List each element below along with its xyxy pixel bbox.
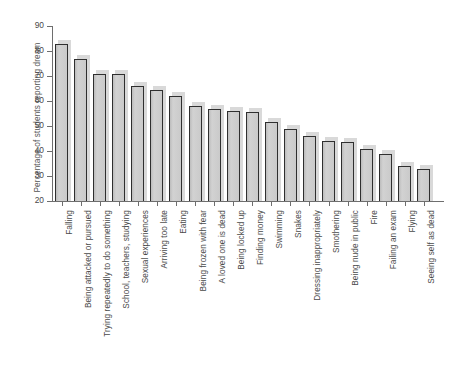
- bar: [322, 137, 339, 201]
- y-axis-line: [52, 26, 53, 202]
- x-tick: [195, 202, 196, 206]
- x-tick-label: Dressing inappropriately: [313, 210, 322, 301]
- bar: [284, 125, 301, 202]
- x-tick: [176, 202, 177, 206]
- bar: [150, 86, 167, 201]
- y-tick: 40: [47, 151, 52, 152]
- x-tick: [119, 202, 120, 206]
- x-tick: [138, 202, 139, 206]
- bar-body: [227, 111, 240, 201]
- x-tick-label: Being nude in public: [351, 210, 360, 286]
- bar: [74, 55, 91, 202]
- bar-chart: Percentage of students reporting dream 2…: [0, 0, 462, 387]
- x-tick-label: School, teachers, studying: [122, 210, 131, 309]
- bar: [246, 108, 263, 201]
- bar: [303, 132, 320, 201]
- x-tick-label: A loved one is dead: [218, 210, 227, 283]
- bar-body: [265, 122, 278, 201]
- bar: [208, 105, 225, 202]
- bar: [189, 102, 206, 201]
- bar-body: [341, 142, 354, 201]
- y-tick-label: 90: [35, 20, 44, 30]
- x-tick-label: Seeing self as dead: [427, 210, 436, 284]
- x-tick: [81, 202, 82, 206]
- bar-body: [208, 109, 221, 202]
- x-tick-label: Finding money: [256, 210, 265, 265]
- bar-body: [417, 169, 430, 202]
- y-tick: 50: [47, 126, 52, 127]
- x-tick-label: Snakes: [294, 210, 303, 238]
- x-tick-label: Fire: [370, 210, 379, 225]
- x-tick-label: Failing an exam: [389, 210, 398, 269]
- y-tick: 20: [47, 201, 52, 202]
- x-tick: [252, 202, 253, 206]
- bar: [93, 70, 110, 202]
- x-tick-label: Being locked up: [237, 210, 246, 270]
- y-tick: 90: [47, 26, 52, 27]
- x-tick-label: Being frozen with fear: [199, 210, 208, 291]
- x-tick-label: Smothering: [332, 210, 341, 253]
- y-tick-label: 30: [35, 170, 44, 180]
- x-tick: [157, 202, 158, 206]
- bar-body: [93, 74, 106, 202]
- x-tick-label: Flying: [408, 210, 417, 232]
- bar-body: [131, 86, 144, 201]
- bar-body: [112, 74, 125, 202]
- x-tick: [233, 202, 234, 206]
- x-tick: [367, 202, 368, 206]
- bar-body: [169, 96, 182, 201]
- bar-body: [360, 149, 373, 202]
- plot-area: 2030405060708090 FallingBeing attacked o…: [52, 26, 444, 201]
- x-tick: [100, 202, 101, 206]
- bar-body: [74, 59, 87, 202]
- bar: [55, 40, 72, 202]
- y-tick-label: 40: [35, 145, 44, 155]
- bar: [360, 145, 377, 202]
- x-tick: [386, 202, 387, 206]
- y-tick-label: 70: [35, 70, 44, 80]
- x-tick: [348, 202, 349, 206]
- y-tick-label: 50: [35, 120, 44, 130]
- bar-body: [150, 90, 163, 201]
- x-tick: [309, 202, 310, 206]
- y-tick-label: 80: [35, 45, 44, 55]
- x-tick: [329, 202, 330, 206]
- x-tick: [62, 202, 63, 206]
- x-tick-label: Falling: [65, 210, 74, 235]
- x-tick-label: Arriving too late: [160, 210, 169, 269]
- x-tick-label: Being attacked or pursued: [84, 210, 93, 308]
- y-tick-label: 60: [35, 95, 44, 105]
- y-tick: 80: [47, 51, 52, 52]
- bar-body: [189, 106, 202, 201]
- x-tick-label: Swimming: [275, 210, 284, 249]
- bar-body: [284, 129, 297, 202]
- bar-body: [398, 166, 411, 201]
- bar: [265, 118, 282, 201]
- x-tick: [290, 202, 291, 206]
- x-tick: [424, 202, 425, 206]
- bar: [169, 92, 186, 201]
- bar-body: [246, 112, 259, 201]
- bar-body: [303, 136, 316, 201]
- x-tick-label: Eating: [179, 210, 188, 234]
- bar: [417, 165, 434, 202]
- y-tick: 30: [47, 176, 52, 177]
- x-tick: [214, 202, 215, 206]
- bar-body: [379, 154, 392, 202]
- x-tick: [405, 202, 406, 206]
- bar-body: [55, 44, 68, 202]
- bar: [398, 162, 415, 201]
- bar: [131, 82, 148, 201]
- y-tick: 70: [47, 76, 52, 77]
- bar: [341, 138, 358, 201]
- y-tick: 60: [47, 101, 52, 102]
- y-tick-label: 20: [35, 195, 44, 205]
- x-tick: [271, 202, 272, 206]
- x-tick-label: Trying repeatedly to do something: [103, 210, 112, 337]
- bar-body: [322, 141, 335, 201]
- bar: [379, 150, 396, 202]
- x-tick-label: Sexual experiences: [141, 210, 150, 283]
- bar: [227, 107, 244, 201]
- bar: [112, 70, 129, 202]
